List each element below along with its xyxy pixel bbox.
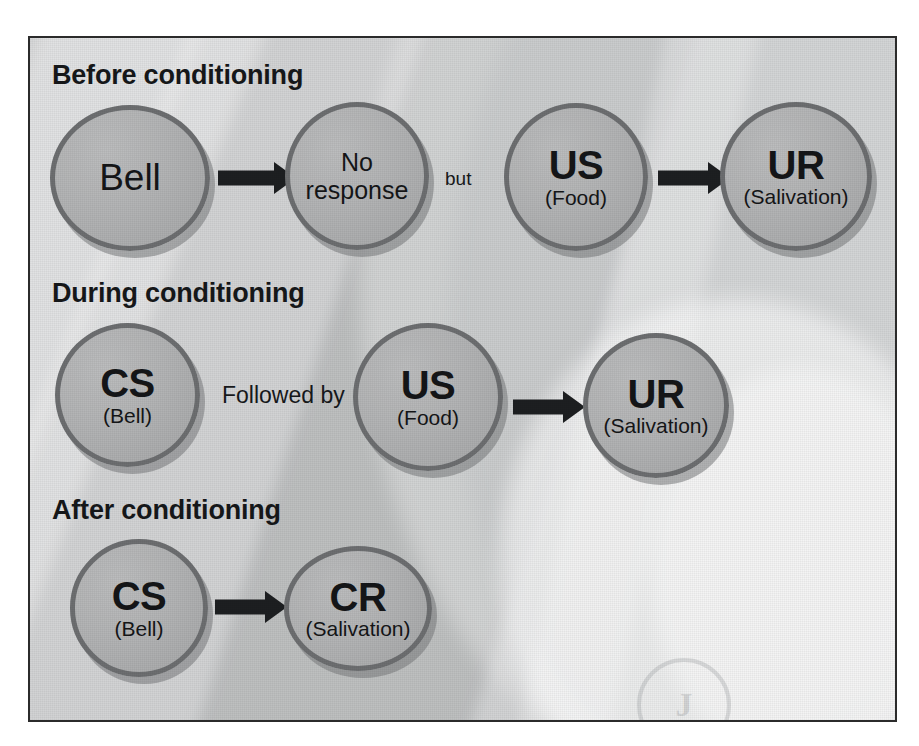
arrow-shaft [218, 171, 276, 186]
node-cr-after[interactable]: CR (Salivation) [284, 546, 432, 671]
node-ur-before-sub: (Salivation) [743, 186, 848, 208]
screenshot-root: J Before conditioning Bell No response b… [0, 0, 919, 746]
node-us-during-main: US [401, 365, 456, 406]
node-cs-after-main: CS [112, 576, 167, 617]
arrow-shaft [658, 171, 710, 186]
node-us-before[interactable]: US (Food) [504, 103, 648, 251]
node-cs-after-sub: (Bell) [114, 618, 163, 640]
section-title-during: During conditioning [52, 278, 305, 309]
node-no-response-label: No response [302, 148, 412, 204]
arrow-head [563, 391, 585, 423]
section-title-before: Before conditioning [52, 60, 303, 91]
node-ur-during-main: UR [628, 374, 685, 415]
node-cs-during[interactable]: CS (Bell) [55, 323, 200, 467]
node-us-before-sub: (Food) [545, 187, 607, 209]
node-us-before-main: US [549, 145, 604, 186]
node-ur-before[interactable]: UR (Salivation) [720, 102, 872, 251]
node-cr-after-sub: (Salivation) [305, 618, 410, 640]
diagram-content: Before conditioning Bell No response but… [30, 38, 895, 720]
arrow-shaft [513, 400, 565, 415]
node-cs-during-sub: (Bell) [103, 405, 152, 427]
node-no-response[interactable]: No response [285, 102, 429, 250]
node-ur-before-main: UR [768, 145, 825, 186]
node-ur-during-sub: (Salivation) [603, 415, 708, 437]
node-us-during-sub: (Food) [397, 407, 459, 429]
node-ur-during[interactable]: UR (Salivation) [583, 333, 729, 478]
node-bell[interactable]: Bell [50, 105, 210, 251]
node-cs-after[interactable]: CS (Bell) [70, 539, 208, 677]
connector-label-followed-by: Followed by [222, 382, 345, 409]
connector-label-but: but [445, 168, 471, 190]
node-us-during[interactable]: US (Food) [353, 323, 503, 471]
diagram-panel: J Before conditioning Bell No response b… [28, 36, 897, 722]
node-bell-label: Bell [99, 159, 161, 197]
node-cs-during-main: CS [100, 363, 155, 404]
node-cr-after-main: CR [330, 577, 387, 618]
arrow-shaft [215, 600, 267, 615]
section-title-after: After conditioning [52, 495, 281, 526]
